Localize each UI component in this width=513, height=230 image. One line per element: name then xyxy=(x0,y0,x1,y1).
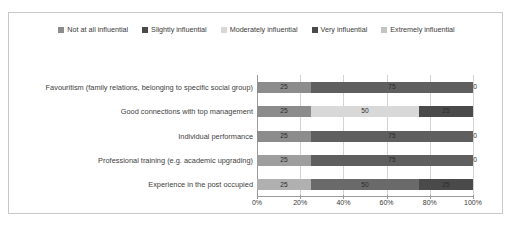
x-axis-tick-labels: 0%20%40%60%80%100% xyxy=(257,199,473,213)
bar-segment: 25 xyxy=(257,82,311,93)
bar-segment-label: 50 xyxy=(361,108,368,115)
bar-row: 255025 xyxy=(257,106,473,117)
x-axis-tick-label: 20% xyxy=(293,199,307,206)
category-label: Good connections with top management xyxy=(43,107,253,116)
x-axis-tick-label: 40% xyxy=(336,199,350,206)
bar-segment-label: 50 xyxy=(361,182,368,189)
bar-segment: 25 xyxy=(257,131,311,142)
y-axis-category-labels: Favouritism (family relations, belonging… xyxy=(41,75,253,197)
x-axis-tick-label: 0% xyxy=(252,199,262,206)
bar-segment: 25 xyxy=(419,179,473,190)
bar-segment-label: 25 xyxy=(280,133,287,140)
legend-item-label: Extremely influential xyxy=(390,26,454,33)
plot-area: 257502550252575025750255025 xyxy=(257,75,473,197)
bar-segment: 25 xyxy=(419,106,473,117)
legend-swatch-icon xyxy=(221,27,227,33)
bar-segment: 25 xyxy=(257,155,311,166)
category-label: Favouritism (family relations, belonging… xyxy=(43,83,253,92)
x-axis-tick-label: 100% xyxy=(464,199,482,206)
legend-item: Not at all influential xyxy=(58,26,128,33)
legend-item: Slightly influential xyxy=(142,26,207,33)
legend-item: Extremely influential xyxy=(381,26,454,33)
bar-segment: 25 xyxy=(257,106,311,117)
bar-segment: 75 xyxy=(311,131,473,142)
bar-row: 25750 xyxy=(257,82,473,93)
category-label: Professional training (e.g. academic upg… xyxy=(43,156,253,165)
legend-item: Moderately influential xyxy=(221,26,298,33)
category-label: Individual performance xyxy=(43,132,253,141)
legend-item-label: Slightly influential xyxy=(151,26,207,33)
bar-segment-label: 25 xyxy=(280,182,287,189)
x-axis-tick-label: 60% xyxy=(380,199,394,206)
chart-legend: Not at all influentialSlightly influenti… xyxy=(9,26,504,33)
bar-row: 255025 xyxy=(257,179,473,190)
bar-segment-label: 0 xyxy=(473,84,477,91)
bar-segment-label: 0 xyxy=(473,157,477,164)
bar-segment: 75 xyxy=(311,155,473,166)
bar-segment: 50 xyxy=(311,106,419,117)
x-axis-line xyxy=(257,196,473,197)
bar-segment-label: 0 xyxy=(473,133,477,140)
bar-segment: 75 xyxy=(311,82,473,93)
bar-segment-label: 75 xyxy=(388,133,395,140)
legend-swatch-icon xyxy=(381,27,387,33)
chart-container: Not at all influentialSlightly influenti… xyxy=(8,12,503,214)
bar-segment-label: 25 xyxy=(280,157,287,164)
legend-item-label: Not at all influential xyxy=(67,26,128,33)
category-label: Experience in the post occupied xyxy=(43,180,253,189)
bar-segment-label: 75 xyxy=(388,157,395,164)
bar-segment-label: 25 xyxy=(280,84,287,91)
bar-segment: 50 xyxy=(311,179,419,190)
bar-row: 25750 xyxy=(257,131,473,142)
legend-item: Very influential xyxy=(312,26,368,33)
bar-row: 25750 xyxy=(257,155,473,166)
bar-segment-label: 25 xyxy=(280,108,287,115)
bar-segment-label: 25 xyxy=(442,182,449,189)
bar-segment-label: 25 xyxy=(442,108,449,115)
x-axis-tick-label: 80% xyxy=(423,199,437,206)
legend-swatch-icon xyxy=(142,27,148,33)
legend-swatch-icon xyxy=(58,27,64,33)
legend-swatch-icon xyxy=(312,27,318,33)
legend-item-label: Very influential xyxy=(321,26,368,33)
bar-segment: 25 xyxy=(257,179,311,190)
bar-segment-label: 75 xyxy=(388,84,395,91)
legend-item-label: Moderately influential xyxy=(230,26,298,33)
